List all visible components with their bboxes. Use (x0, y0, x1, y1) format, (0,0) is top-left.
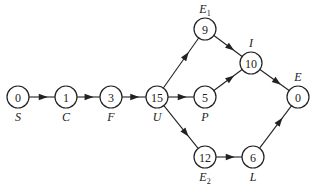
nodes-layer: 0S1C3F15U9E15P10I0E12E26L (7, 2, 309, 186)
node-label: L (249, 170, 257, 184)
node-label: P (200, 110, 209, 124)
node-c: 1C (55, 86, 77, 124)
node-value: 15 (151, 91, 163, 105)
node-label: E2 (198, 170, 210, 186)
node-p: 5P (194, 86, 216, 124)
node-value: 9 (202, 23, 208, 37)
node-label: S (15, 110, 21, 124)
arrowhead-icon (225, 43, 234, 51)
arrowhead-icon (85, 94, 94, 100)
node-f: 3F (100, 86, 122, 124)
edge-u-e1 (163, 38, 198, 88)
node-value: 5 (202, 91, 208, 105)
arrowhead-icon (181, 52, 189, 61)
node-label: I (248, 36, 254, 50)
node-value: 12 (199, 151, 211, 165)
arrowhead-icon (39, 94, 48, 100)
node-u: 15U (146, 86, 168, 124)
node-label: C (62, 110, 71, 124)
node-label: E1 (198, 2, 210, 18)
node-label: U (153, 110, 163, 124)
edge-l-e (260, 106, 292, 148)
arrowhead-icon (225, 75, 234, 83)
node-s: 0S (7, 86, 29, 124)
node-e1: 9E1 (194, 2, 216, 40)
node-label: E (293, 70, 302, 84)
node-value: 1 (63, 91, 69, 105)
node-i: 10I (240, 36, 262, 74)
network-diagram: 0S1C3F15U9E15P10I0E12E26L (0, 0, 315, 194)
node-value: 3 (108, 91, 114, 105)
edge-u-e2 (164, 106, 198, 149)
node-value: 0 (295, 91, 301, 105)
arrowhead-icon (275, 118, 283, 127)
node-e2: 12E2 (194, 146, 216, 186)
node-value: 0 (15, 91, 21, 105)
node-value: 10 (245, 57, 257, 71)
arrowhead-icon (130, 94, 139, 100)
arrowhead-icon (178, 94, 187, 100)
arrowhead-icon (226, 154, 235, 160)
node-l: 6L (242, 146, 264, 184)
arrowhead-icon (180, 127, 188, 136)
node-value: 6 (250, 151, 256, 165)
node-label: F (106, 110, 115, 124)
arrowhead-icon (272, 77, 281, 85)
node-e: 0E (287, 70, 309, 108)
